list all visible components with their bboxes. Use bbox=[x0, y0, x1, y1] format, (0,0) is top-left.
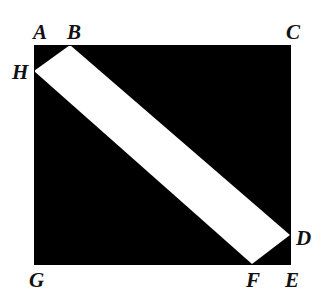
geometry-figure: G A B C D E F G H bbox=[0, 0, 323, 305]
vertex-label-b: B bbox=[67, 22, 81, 43]
vertex-label-c: C bbox=[286, 22, 300, 43]
square-with-diagonal-band bbox=[0, 0, 323, 305]
vertex-label-a: A bbox=[33, 22, 47, 43]
vertex-label-f: F bbox=[246, 270, 260, 291]
vertex-label-g: G bbox=[29, 270, 44, 291]
vertex-label-e: E bbox=[285, 270, 299, 291]
vertex-label-h: H bbox=[12, 62, 28, 83]
vertex-label-d: D bbox=[296, 228, 311, 249]
